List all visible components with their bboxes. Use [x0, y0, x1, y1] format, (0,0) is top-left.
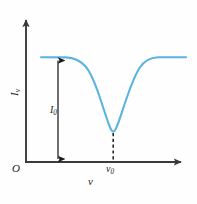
y-axis-base: I: [8, 92, 20, 96]
absorption-curve: [41, 57, 186, 131]
y-axis-label: Iν: [9, 89, 22, 96]
axes-group: [25, 20, 181, 162]
nu0-tick-label: ν0: [106, 164, 114, 176]
x-axis-label: ν: [88, 176, 93, 187]
y-axis-subscript: ν: [13, 89, 22, 93]
origin-label: O: [12, 163, 20, 174]
absorption-spectrum-figure: O ν ν0 Iν I0: [0, 0, 197, 204]
plot-canvas: [0, 0, 197, 204]
spectrum-curve-group: [41, 57, 186, 131]
i0-subscript: 0: [53, 109, 57, 117]
i0-arrow-label: I0: [50, 105, 57, 117]
nu0-subscript: 0: [110, 168, 114, 176]
